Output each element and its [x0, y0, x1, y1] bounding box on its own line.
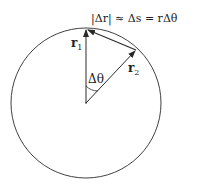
angle-arc — [86, 86, 98, 91]
label-r1: r1 — [71, 36, 82, 52]
label-delta-theta: Δθ — [88, 72, 104, 86]
equation-label: |Δr| ≈ Δs = rΔθ — [91, 12, 178, 26]
label-r2: r2 — [128, 61, 139, 77]
circular-motion-diagram: |Δr| ≈ Δs = rΔθ r1 r2 Δθ — [0, 0, 200, 192]
